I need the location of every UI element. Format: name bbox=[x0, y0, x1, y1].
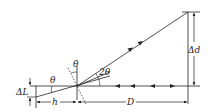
theta-left-label: θ bbox=[50, 75, 56, 85]
reflected-ray bbox=[77, 12, 188, 86]
D-label: D bbox=[126, 97, 134, 107]
delta-d-label: Δd bbox=[187, 45, 200, 55]
baseline-arrow-icon bbox=[130, 84, 135, 88]
baseline-arrow-icon bbox=[150, 84, 155, 88]
h-label: h bbox=[52, 97, 58, 107]
baseline-arrow-icon bbox=[115, 84, 120, 88]
optical-lever-diagram: Δd D h ΔL θ θ 2θ bbox=[0, 0, 213, 112]
theta-left-arc bbox=[51, 86, 52, 93]
delta-L-label: ΔL bbox=[15, 87, 28, 97]
two-theta-label: 2θ bbox=[98, 67, 111, 77]
theta-top-label: θ bbox=[73, 59, 79, 69]
baseline-arrow-icon bbox=[170, 84, 175, 88]
theta-top-arc bbox=[71, 72, 77, 73]
